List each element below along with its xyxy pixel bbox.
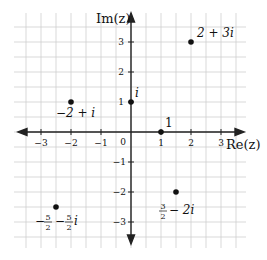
label-1: 1 bbox=[165, 116, 173, 130]
svg-text:2: 2 bbox=[160, 212, 165, 221]
complex-plane-diagram: −3 −2 −1 1 2 3 0 3 2 1 −1 −2 −3 Im(z) Re… bbox=[0, 0, 267, 260]
x-tick: −2 bbox=[64, 138, 77, 148]
x-tick: 3 bbox=[218, 138, 224, 148]
points bbox=[53, 39, 194, 210]
label-minus-5-2-minus-5-2i: − 5 2 − 5 2 i bbox=[35, 213, 78, 232]
point-minus-5-2-minus-5-2i bbox=[53, 204, 59, 210]
label-2-plus-3i: 2 + 3i bbox=[196, 26, 234, 40]
label-i: i bbox=[135, 86, 139, 100]
x-axis-arrow-right-icon bbox=[235, 129, 244, 136]
svg-text:5: 5 bbox=[45, 213, 50, 222]
x-tick: 1 bbox=[158, 138, 164, 148]
x-tick: 2 bbox=[188, 138, 194, 148]
x-axis-title: Re(z) bbox=[226, 137, 260, 152]
y-tick: 1 bbox=[118, 97, 124, 107]
point-2-plus-3i bbox=[188, 39, 194, 45]
point-minus-2-plus-i bbox=[68, 99, 74, 105]
x-tick: −3 bbox=[34, 138, 48, 148]
svg-text:−: − bbox=[55, 214, 65, 228]
x-tick: −1 bbox=[94, 138, 107, 148]
svg-text:−: − bbox=[35, 214, 45, 228]
label-minus-2-plus-i: −2 + i bbox=[56, 106, 95, 120]
svg-text:5: 5 bbox=[66, 213, 71, 222]
y-axis-title: Im(z) bbox=[96, 11, 130, 26]
svg-text:2: 2 bbox=[45, 223, 50, 232]
point-1 bbox=[158, 129, 164, 135]
axes bbox=[18, 13, 244, 244]
label-3-2-minus-2i: 3 2 − 2i bbox=[159, 202, 195, 221]
y-tick: −3 bbox=[113, 217, 127, 227]
y-tick: 2 bbox=[118, 67, 124, 77]
y-tick: 3 bbox=[118, 37, 124, 47]
y-tick: −2 bbox=[113, 187, 126, 197]
svg-text:2: 2 bbox=[66, 223, 71, 232]
point-3-2-minus-2i bbox=[173, 189, 179, 195]
svg-text:3: 3 bbox=[160, 202, 165, 211]
y-axis-arrow-down-icon bbox=[128, 235, 135, 244]
y-tick: −1 bbox=[113, 157, 126, 167]
x-axis-arrow-left-icon bbox=[18, 129, 27, 136]
point-i bbox=[128, 99, 134, 105]
svg-text:i: i bbox=[74, 214, 78, 228]
svg-text:− 2i: − 2i bbox=[169, 203, 195, 217]
x-tick-labels: −3 −2 −1 1 2 3 bbox=[34, 138, 224, 148]
origin-label: 0 bbox=[120, 137, 126, 147]
